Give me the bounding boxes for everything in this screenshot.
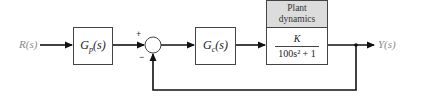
controller-block: Gc(s) [195, 27, 236, 65]
prefilter-label: Gp(s) [80, 38, 105, 54]
plant-header-line1: Plant [287, 3, 307, 14]
minus-sign: − [139, 52, 144, 62]
plus-sign: + [136, 29, 141, 39]
controller-label: Gc(s) [203, 38, 228, 54]
output-signal-label: Y(s) [378, 38, 396, 50]
prefilter-block: Gp(s) [73, 27, 113, 65]
plant-header-line2: dynamics [279, 14, 315, 25]
plant-denominator: 100s² + 1 [278, 48, 316, 60]
fraction-bar [275, 46, 319, 47]
plant-numerator: K [294, 33, 301, 45]
plant-block: Plant dynamics K 100s² + 1 [266, 0, 328, 65]
plant-header: Plant dynamics [267, 1, 327, 28]
input-signal-label: R(s) [19, 38, 37, 50]
plant-transfer-function: K 100s² + 1 [267, 28, 327, 64]
summing-junction [145, 37, 161, 53]
control-block-diagram: R(s) Gp(s) + − Gc(s) Plant dynamics K 10… [0, 0, 422, 98]
